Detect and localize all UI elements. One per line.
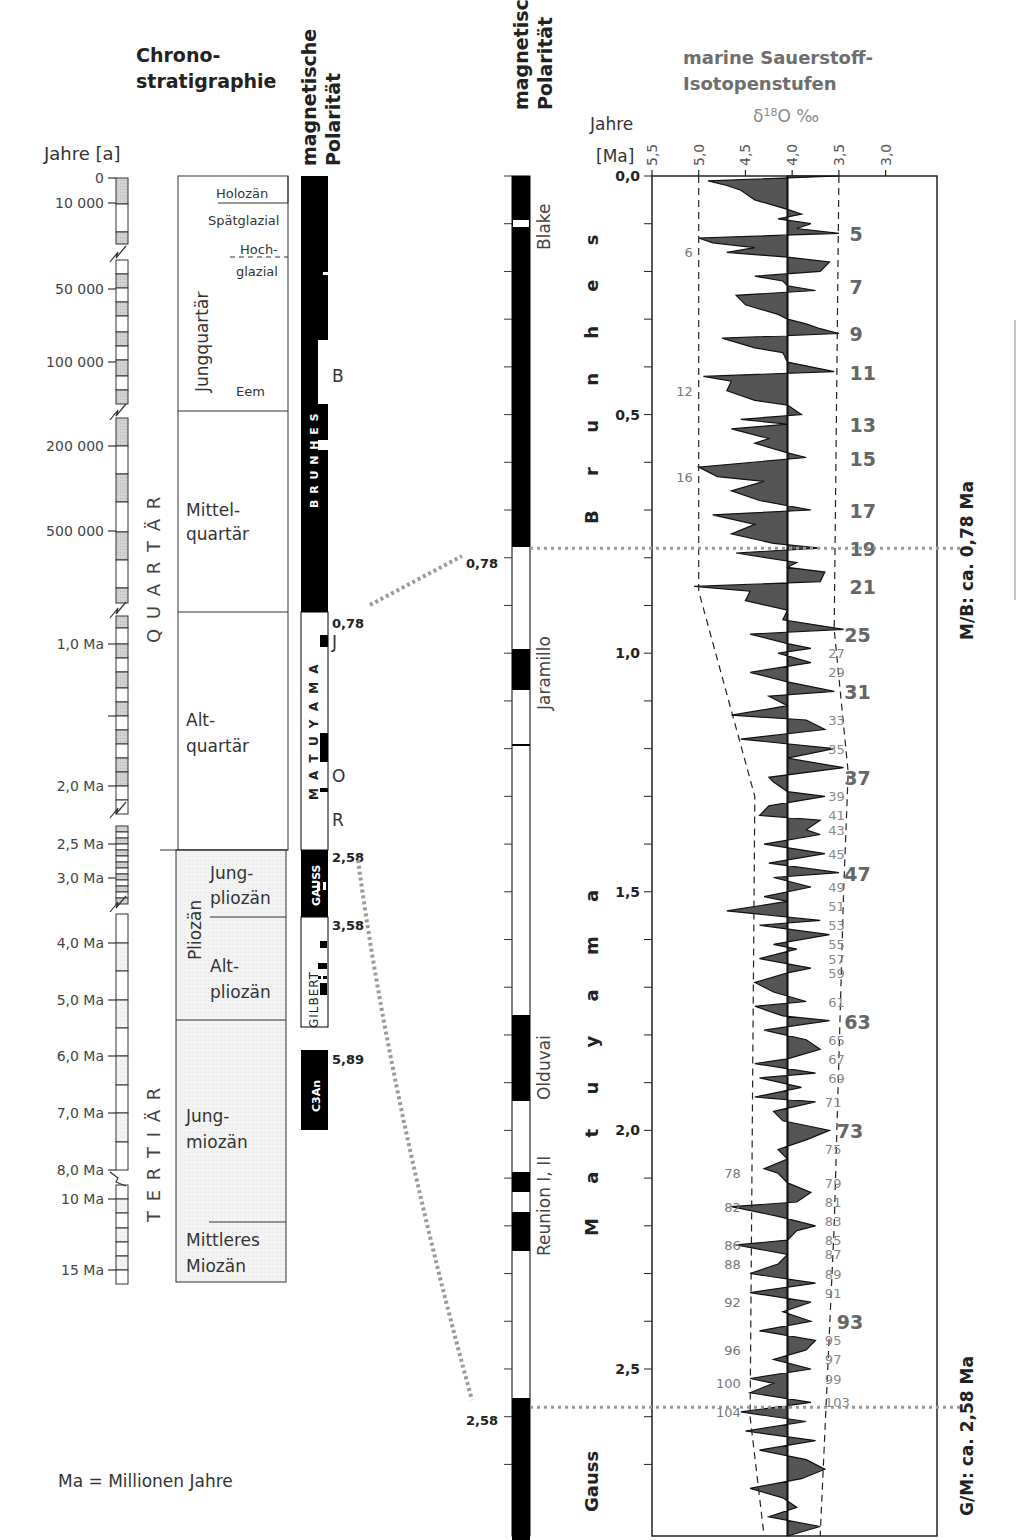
x-tick-label: 5,5 bbox=[644, 144, 660, 166]
epoch-mittelquartaer-2: quartär bbox=[186, 524, 249, 544]
chronostrat-title-1: Chrono- bbox=[136, 44, 220, 66]
axis-tick-label: 100 000 bbox=[46, 354, 104, 370]
chron-gauss: GAUSS bbox=[310, 864, 323, 906]
chron-c3an: C3An bbox=[310, 1080, 323, 1112]
axis-tick-label: 1,0 Ma bbox=[57, 636, 104, 652]
stage-label: 97 bbox=[825, 1352, 842, 1367]
event-o: O bbox=[332, 766, 345, 786]
chart-ylabel-1: Jahre bbox=[589, 114, 633, 134]
stage-label: 55 bbox=[828, 937, 845, 952]
y-tick-label: 0,0 bbox=[615, 168, 640, 184]
stage-label: 92 bbox=[724, 1295, 741, 1310]
event-b: B bbox=[332, 366, 344, 386]
axis-tick-label: 2,5 Ma bbox=[57, 836, 104, 852]
stage-label: 91 bbox=[825, 1286, 842, 1301]
stage-label: 7 bbox=[850, 276, 863, 298]
epoch-jungmiozaen-2: miozän bbox=[186, 1132, 248, 1152]
axis-tick-label: 15 Ma bbox=[61, 1262, 104, 1278]
stage-label: 12 bbox=[676, 384, 693, 399]
epoch-mittleres-miozaen-2: Miozän bbox=[186, 1256, 246, 1276]
stage-label: 79 bbox=[825, 1176, 842, 1191]
axis-tick-label: 10 Ma bbox=[61, 1191, 104, 1207]
axis-tick-label: 0 bbox=[95, 170, 104, 186]
epoch-spaetglazial: Spätglazial bbox=[208, 213, 279, 228]
axis-tick-label: 3,0 Ma bbox=[57, 870, 104, 886]
stage-label: 9 bbox=[850, 323, 863, 345]
stage-label: 43 bbox=[828, 823, 845, 838]
epoch-altpliozaen-2: pliozän bbox=[210, 982, 271, 1002]
stage-label: 21 bbox=[850, 576, 876, 598]
epoch-jungpliozaen-2: pliozän bbox=[210, 888, 271, 908]
event-olduvai: Olduvai bbox=[534, 1035, 554, 1100]
time-scale-column bbox=[116, 178, 128, 1284]
y-tick-label: 1,0 bbox=[615, 645, 640, 661]
boundary-5-89: 5,89 bbox=[332, 1052, 364, 1067]
stage-label: 59 bbox=[828, 966, 845, 981]
axis-tick-label: 2,0 Ma bbox=[57, 778, 104, 794]
y-tick-label: 2,0 bbox=[615, 1122, 640, 1138]
polarity-title-1: magnetische bbox=[298, 29, 320, 166]
system-label-quartaer: Q U A R T Ä R bbox=[143, 495, 164, 643]
axis-tick-label: 7,0 Ma bbox=[57, 1105, 104, 1121]
system-label-tertiaer: T E R T I Ä R bbox=[143, 1086, 164, 1223]
stage-label: 13 bbox=[850, 414, 876, 436]
stage-label: 35 bbox=[828, 742, 845, 757]
right-boundary-2-58: 2,58 bbox=[466, 1413, 498, 1428]
epoch-jungpliozaen-1: Jung- bbox=[209, 863, 254, 883]
x-tick-label: 3,0 bbox=[878, 144, 894, 166]
left-polarity-title: magnetische Polarität bbox=[298, 29, 344, 166]
stage-label: 53 bbox=[828, 918, 845, 933]
axis-tick-label: 500 000 bbox=[46, 523, 104, 539]
stage-label: 86 bbox=[724, 1238, 741, 1253]
stage-label: 47 bbox=[844, 863, 870, 885]
chron-matuyama: M A T U Y A M A bbox=[307, 662, 321, 800]
stage-label: 51 bbox=[828, 899, 845, 914]
chart-subtitle: δ18O ‰ bbox=[753, 106, 819, 126]
stage-label: 88 bbox=[724, 1257, 741, 1272]
stage-label: 16 bbox=[676, 470, 693, 485]
stage-label: 71 bbox=[825, 1095, 842, 1110]
right-polarity-panel: magnetische Polarität Blake Jaramillo Ol… bbox=[466, 0, 602, 1540]
stage-label: 17 bbox=[850, 500, 876, 522]
chron-brunhes-large: B r u n h e s bbox=[581, 220, 602, 524]
axis-tick-label: 10 000 bbox=[55, 195, 104, 211]
axis-tick-label: 4,0 Ma bbox=[57, 935, 104, 951]
x-tick-label: 5,0 bbox=[691, 144, 707, 166]
stage-label: 45 bbox=[828, 847, 845, 862]
years-axis-label: Jahre [a] bbox=[43, 143, 121, 164]
stage-label: 49 bbox=[828, 880, 845, 895]
chron-brunhes: B R U N H E S bbox=[308, 412, 321, 508]
stage-label: 31 bbox=[844, 681, 870, 703]
footnote: Ma = Millionen Jahre bbox=[58, 1471, 233, 1491]
axis-tick-label: 200 000 bbox=[46, 438, 104, 454]
stage-label: 87 bbox=[825, 1247, 842, 1262]
stage-label: 99 bbox=[825, 1372, 842, 1387]
stage-label: 81 bbox=[825, 1195, 842, 1210]
epoch-altpliozaen-1: Alt- bbox=[210, 956, 239, 976]
stage-label: 39 bbox=[828, 789, 845, 804]
stage-label: 29 bbox=[828, 665, 845, 680]
x-tick-label: 4,5 bbox=[737, 144, 753, 166]
epoch-pliozaen: Pliozän bbox=[185, 900, 205, 960]
chron-gauss-large: Gauss bbox=[581, 1451, 602, 1512]
stage-label: 57 bbox=[828, 952, 845, 967]
epoch-mittelquartaer-1: Mittel- bbox=[186, 500, 240, 520]
stage-label: 78 bbox=[724, 1166, 741, 1181]
stage-label: 11 bbox=[850, 362, 876, 384]
right-polarity-title: magnetische Polarität bbox=[510, 0, 556, 110]
stage-label: 33 bbox=[828, 713, 845, 728]
epoch-altquartaer-2: quartär bbox=[186, 736, 249, 756]
y-tick-label: 0,5 bbox=[615, 407, 640, 423]
epoch-jungmiozaen-1: Jung- bbox=[185, 1106, 230, 1126]
epoch-hochglazial-2: glazial bbox=[236, 264, 278, 279]
x-tick-label: 3,5 bbox=[831, 144, 847, 166]
event-reunion: Reunion I, II bbox=[534, 1156, 554, 1256]
chron-matuyama-large: M a t u y a m a bbox=[581, 876, 602, 1236]
stage-label: 61 bbox=[828, 995, 845, 1010]
stage-label: 5 bbox=[850, 223, 863, 245]
y-tick-label: 2,5 bbox=[615, 1361, 640, 1377]
chronostrat-title-2: stratigraphie bbox=[136, 70, 277, 92]
mb-boundary-label: M/B: ca. 0,78 Ma bbox=[957, 481, 977, 640]
epoch-altquartaer-1: Alt- bbox=[186, 710, 215, 730]
stage-label: 96 bbox=[724, 1343, 741, 1358]
